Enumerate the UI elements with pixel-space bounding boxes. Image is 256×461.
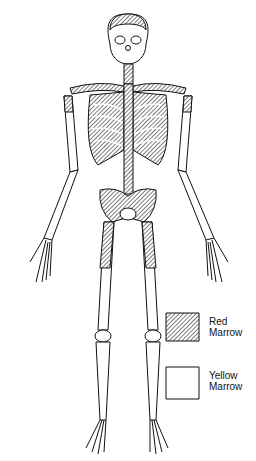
legend-red-line1: Red — [209, 316, 242, 327]
legend-yellow-line1: Yellow — [209, 370, 242, 381]
legend-red-swatch — [166, 313, 199, 341]
legend-yellow-swatch — [166, 367, 199, 399]
legend-yellow-line2: Marrow — [209, 381, 242, 392]
legend-red-line2: Marrow — [209, 327, 242, 338]
spine — [124, 84, 133, 194]
legend-yellow-marrow: Yellow Marrow — [209, 370, 242, 392]
legend-red-marrow: Red Marrow — [209, 316, 242, 338]
skeleton-marrow-diagram: Red Marrow Yellow Marrow — [0, 0, 256, 461]
